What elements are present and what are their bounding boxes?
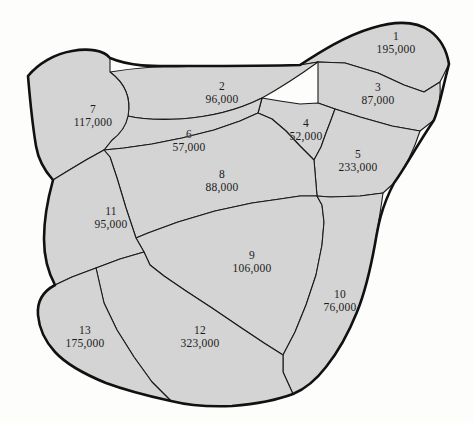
region-shape-group bbox=[28, 23, 449, 406]
map-canvas bbox=[0, 0, 473, 423]
region-map-figure: 1195,000296,000387,000452,0005233,000657… bbox=[0, 0, 473, 423]
